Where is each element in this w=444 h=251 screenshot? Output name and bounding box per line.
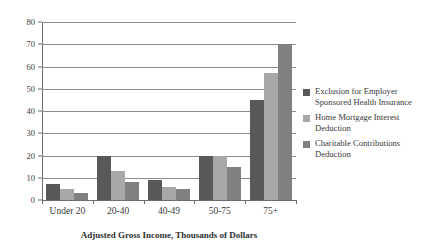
legend-item: Charitable ContributionsDeduction xyxy=(303,138,441,160)
bar-group xyxy=(245,22,296,200)
x-axis-title: Adjusted Gross Income, Thousands of Doll… xyxy=(42,230,296,240)
bar xyxy=(74,193,88,200)
bar xyxy=(97,156,111,201)
bar xyxy=(162,187,176,200)
bar xyxy=(125,182,139,200)
plot-area: 01020304050607080 xyxy=(42,22,296,200)
legend-label: Exclusion for EmployerSponsored Health I… xyxy=(315,86,412,108)
x-axis-category-label: Under 20 xyxy=(42,206,93,216)
y-axis-tick-label: 10 xyxy=(27,174,43,183)
bar-group xyxy=(93,22,144,200)
legend-label: Charitable ContributionsDeduction xyxy=(315,138,400,160)
y-axis-tick-label: 80 xyxy=(27,18,43,27)
bar xyxy=(199,156,213,201)
x-tickmark xyxy=(93,200,94,204)
chart-legend: Exclusion for EmployerSponsored Health I… xyxy=(303,86,441,164)
bar-groups xyxy=(42,22,296,200)
bar xyxy=(264,73,278,200)
x-axis-category-label: 40-49 xyxy=(144,206,195,216)
x-tickmark xyxy=(296,200,297,204)
x-axis-labels: Under 2020-4040-4950-7575+ xyxy=(42,206,296,216)
y-axis-tick-label: 30 xyxy=(27,129,43,138)
bar xyxy=(278,44,292,200)
x-axis-category-label: 75+ xyxy=(245,206,296,216)
legend-item: Home Mortgage InterestDeduction xyxy=(303,112,441,134)
bar xyxy=(250,100,264,200)
bar xyxy=(148,180,162,200)
bar xyxy=(46,184,60,200)
y-axis-tick-label: 0 xyxy=(31,196,42,205)
x-axis-category-label: 50-75 xyxy=(194,206,245,216)
legend-label: Home Mortgage InterestDeduction xyxy=(315,112,399,134)
y-axis-tick-label: 20 xyxy=(27,151,43,160)
bar-chart-figure: 01020304050607080 Under 2020-4040-4950-7… xyxy=(0,0,444,251)
bar xyxy=(213,156,227,201)
legend-swatch-icon xyxy=(303,89,310,96)
bar-group xyxy=(144,22,195,200)
bar-group xyxy=(194,22,245,200)
x-tickmark xyxy=(144,200,145,204)
y-axis-tick-label: 40 xyxy=(27,107,43,116)
x-axis-category-label: 20-40 xyxy=(93,206,144,216)
bar xyxy=(60,189,74,200)
bar-group xyxy=(42,22,93,200)
y-axis-tick-label: 50 xyxy=(27,85,43,94)
x-tickmark xyxy=(245,200,246,204)
y-axis-tick-label: 70 xyxy=(27,40,43,49)
bar xyxy=(176,189,190,200)
bar xyxy=(111,171,125,200)
x-tickmark xyxy=(42,200,43,204)
legend-swatch-icon xyxy=(303,115,310,122)
legend-swatch-icon xyxy=(303,141,310,148)
x-tickmark xyxy=(194,200,195,204)
y-axis-tick-label: 60 xyxy=(27,62,43,71)
x-axis-ticks xyxy=(42,200,296,205)
bar xyxy=(227,167,241,200)
legend-item: Exclusion for EmployerSponsored Health I… xyxy=(303,86,441,108)
